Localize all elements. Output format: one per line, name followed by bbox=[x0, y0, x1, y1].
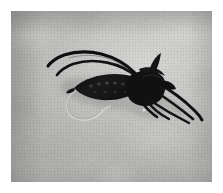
antennae bbox=[48, 52, 137, 77]
photograph: Dark artificial fly-fishing lure resembl… bbox=[11, 11, 212, 182]
photo-frame: Dark artificial fly-fishing lure resembl… bbox=[0, 0, 223, 193]
fly-lure bbox=[11, 11, 212, 182]
wingcase-glint bbox=[164, 63, 166, 65]
hook-eye-glint bbox=[143, 109, 146, 112]
